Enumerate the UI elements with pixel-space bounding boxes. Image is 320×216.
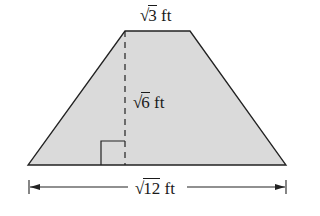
top-radicand: 3 bbox=[148, 5, 157, 24]
arrow-left-icon bbox=[30, 184, 40, 190]
bottom-radicand: 12 bbox=[143, 178, 160, 197]
height-radicand: 6 bbox=[141, 92, 150, 111]
top-unit: ft bbox=[157, 6, 172, 25]
height-unit: ft bbox=[150, 93, 165, 112]
top-base-label: √3 ft bbox=[140, 5, 171, 24]
bottom-base-label: √12 ft bbox=[135, 178, 175, 197]
arrow-right-icon bbox=[275, 184, 285, 190]
height-label: √6 ft bbox=[133, 92, 164, 111]
bottom-unit: ft bbox=[160, 179, 175, 198]
